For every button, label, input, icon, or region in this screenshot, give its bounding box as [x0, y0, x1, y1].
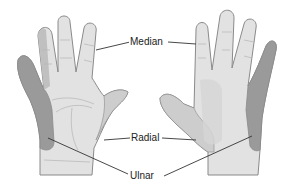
median-leader-left [96, 42, 130, 50]
hand-nerve-diagram [0, 0, 292, 190]
right-hand-dorsal [160, 10, 276, 175]
median-label: Median [129, 36, 164, 47]
radial-leader-left [104, 138, 130, 140]
left-hand-palmar [18, 16, 128, 175]
ulnar-label: Ulnar [129, 170, 155, 181]
radial-label: Radial [130, 132, 160, 143]
median-leader-right [168, 42, 196, 44]
